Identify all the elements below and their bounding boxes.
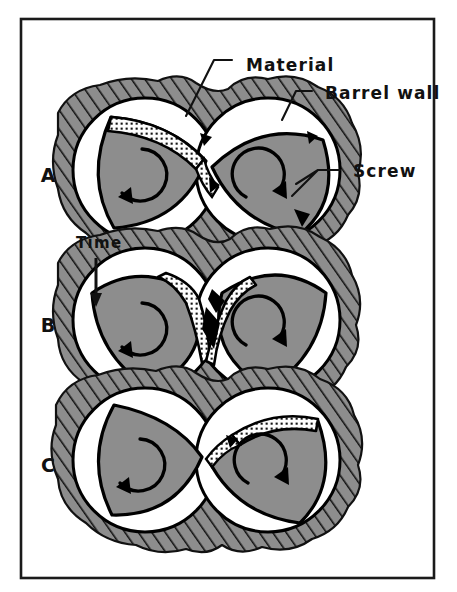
annotation-label-screw: Screw <box>353 161 416 181</box>
annotation-label-barrel-wall: Barrel wall <box>325 83 440 103</box>
panel-label-C: C <box>41 454 55 476</box>
panel-label-A: A <box>41 164 56 186</box>
panel-label-B: B <box>41 314 55 336</box>
twin-screw-diagram: Material Barrel wall Screw Time A B C <box>0 0 457 592</box>
annotation-label-material: Material <box>246 55 334 75</box>
time-axis-label: Time <box>76 234 122 252</box>
figure-container: Material Barrel wall Screw Time A B C <box>0 0 457 592</box>
panel-C <box>51 366 362 552</box>
